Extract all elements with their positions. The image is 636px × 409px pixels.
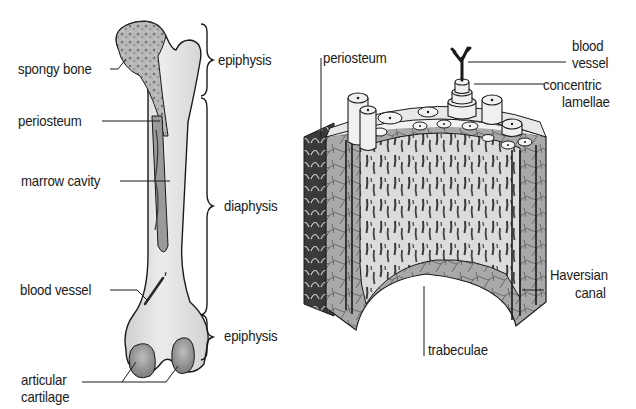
- label-cartilage: cartilage: [21, 389, 69, 405]
- diagram-artwork: [0, 0, 636, 409]
- bone-anatomy-diagram: spongy bone periosteum marrow cavity blo…: [0, 0, 636, 409]
- label-canal: canal: [575, 285, 606, 301]
- label-marrow-cavity: marrow cavity: [21, 173, 100, 189]
- compact-bone-illustration: [304, 48, 546, 330]
- label-epiphysis-top: epiphysis: [218, 52, 271, 68]
- label-blood-vessel-left: blood vessel: [20, 282, 91, 298]
- label-diaphysis: diaphysis: [224, 198, 277, 214]
- label-concentric: concentric: [543, 77, 601, 93]
- region-braces: [201, 24, 213, 360]
- label-epiphysis-bottom: epiphysis: [224, 328, 277, 344]
- label-vessel: vessel: [572, 55, 608, 71]
- label-periosteum-left: periosteum: [18, 113, 82, 129]
- label-blood: blood: [572, 38, 603, 54]
- label-trabeculae: trabeculae: [428, 342, 488, 358]
- label-spongy-bone: spongy bone: [18, 61, 92, 77]
- label-haversian: Haversian: [550, 267, 608, 283]
- label-lamellae: lamellae: [562, 94, 610, 110]
- label-articular: articular: [21, 372, 66, 388]
- femur-illustration: [116, 21, 208, 378]
- label-periosteum-right: periosteum: [323, 50, 387, 66]
